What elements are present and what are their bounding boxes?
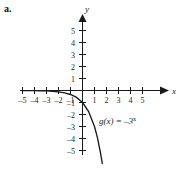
y-tick-label--2: –2	[66, 111, 75, 120]
figure-container: a.	[0, 0, 185, 170]
x-tick-label-4: 4	[129, 96, 133, 105]
y-tick-label-4: 4	[71, 39, 75, 48]
y-tick-label--5: –5	[66, 147, 75, 156]
x-axis-arrow-icon	[160, 87, 169, 95]
x-tick-label--3: –3	[42, 96, 51, 105]
x-tick-label-5: 5	[141, 96, 145, 105]
y-tick-label--3: –3	[66, 123, 75, 132]
x-tick-label-2: 2	[105, 96, 109, 105]
function-label-base: g(x) = –3	[99, 116, 134, 126]
x-tick-label-1: 1	[93, 96, 97, 105]
y-axis-label: y	[84, 4, 89, 14]
y-axis-arrow-icon	[79, 14, 87, 22]
x-tick-label--4: –4	[30, 96, 39, 105]
y-tick-label-3: 3	[71, 51, 75, 60]
y-tick-label--1: –1	[66, 99, 75, 108]
y-tick-label-1: 1	[71, 75, 75, 84]
y-tick-label-5: 5	[71, 27, 75, 36]
x-axis-label: x	[171, 86, 176, 96]
y-tick-label--4: –4	[66, 135, 75, 144]
graph-plot: –5 –4 –3 –2 –1 1 2 3 4 5 5 4 3 2 1 –1 –2…	[0, 0, 185, 170]
y-tick-label-2: 2	[71, 63, 75, 72]
function-label: g(x) = –3x	[99, 115, 137, 126]
function-label-exponent: x	[133, 115, 137, 122]
x-tick-label--2: –2	[54, 96, 63, 105]
x-tick-label--5: –5	[18, 96, 27, 105]
x-tick-label-3: 3	[117, 96, 121, 105]
